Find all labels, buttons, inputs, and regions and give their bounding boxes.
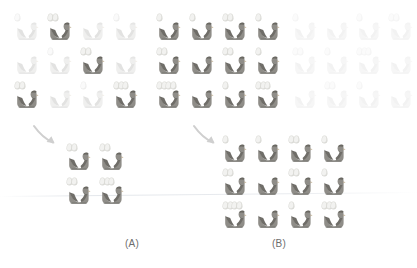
egg-icon xyxy=(48,48,53,55)
background-ghost-grid-eggs-10 xyxy=(356,80,382,89)
hen-icon xyxy=(15,55,39,75)
background-ghost-grid-cell-3 xyxy=(388,12,414,42)
egg-icon xyxy=(366,48,371,55)
hen-icon xyxy=(157,21,181,41)
panel-b-source-grid-cell-0 xyxy=(156,12,182,42)
hen-icon xyxy=(256,143,280,163)
panel-b-result-grid-eggs-6 xyxy=(288,167,314,176)
egg-icon xyxy=(228,14,233,21)
panel-a-source-grid-eggs-2 xyxy=(80,12,106,21)
panel-b-result-grid-eggs-9 xyxy=(255,200,281,209)
panel-b-source-grid-cell-3 xyxy=(255,12,281,42)
panel-a-source-grid-eggs-5 xyxy=(47,46,73,55)
panel-b-result-grid-eggs-3 xyxy=(321,134,347,143)
hen-icon xyxy=(293,21,317,41)
panel-b-source-grid-cell-9 xyxy=(189,80,215,110)
hen-icon xyxy=(114,55,138,75)
hen-icon xyxy=(100,151,124,171)
panel-b-result-grid-cell-8 xyxy=(222,200,248,230)
hen-icon xyxy=(289,209,313,229)
panel-b-result-grid-cell-2 xyxy=(288,134,314,164)
panel-a-source-grid-eggs-4 xyxy=(14,46,40,55)
hen-icon xyxy=(289,143,313,163)
hen-icon xyxy=(325,89,349,109)
panel-b-source-grid-eggs-11 xyxy=(255,80,281,89)
egg-icon xyxy=(294,136,299,143)
panel-a-source-grid-eggs-1 xyxy=(47,12,73,21)
egg-icon xyxy=(72,144,77,151)
background-ghost-grid-cell-11 xyxy=(388,80,414,110)
background-ghost-grid-eggs-6 xyxy=(356,46,382,55)
hen-icon xyxy=(48,89,72,109)
panel-b-source-grid-eggs-9 xyxy=(189,80,215,89)
egg-icon xyxy=(171,82,176,89)
panel-b-result-grid-cell-7 xyxy=(321,167,347,197)
panel-b-result-grid-eggs-7 xyxy=(321,167,347,176)
panel-b-result-grid-eggs-4 xyxy=(222,167,248,176)
panel-b-arrow xyxy=(192,124,220,148)
hen-icon xyxy=(223,89,247,109)
background-ghost-grid-eggs-11 xyxy=(388,80,414,89)
hen-icon xyxy=(67,185,91,205)
hen-icon xyxy=(223,21,247,41)
hen-icon xyxy=(157,55,181,75)
hen-icon xyxy=(325,21,349,41)
hen-icon xyxy=(223,143,247,163)
panel-b-result-grid-cell-5 xyxy=(255,167,281,197)
background-ghost-grid-cell-5 xyxy=(324,46,350,76)
hen-icon xyxy=(389,89,413,109)
hen-icon xyxy=(223,55,247,75)
egg-icon xyxy=(322,136,327,143)
egg-icon xyxy=(81,82,86,89)
hen-icon xyxy=(157,89,181,109)
egg-icon xyxy=(228,48,233,55)
panel-a-source-grid-cell-9 xyxy=(47,80,73,110)
egg-icon xyxy=(256,14,261,21)
panel-a-source-grid-cell-10 xyxy=(80,80,106,110)
panel-b-source-grid-cell-1 xyxy=(189,12,215,42)
panel-b-source-grid-cell-10 xyxy=(222,80,248,110)
background-ghost-grid-eggs-9 xyxy=(324,80,350,89)
panel-b-result-grid-cell-1 xyxy=(255,134,281,164)
egg-icon xyxy=(330,82,335,89)
hen-icon xyxy=(256,176,280,196)
panel-a-arrow xyxy=(32,124,60,148)
panel-b-result-grid-eggs-5 xyxy=(255,167,281,176)
hen-icon xyxy=(81,89,105,109)
egg-icon xyxy=(289,202,294,209)
egg-icon xyxy=(109,178,114,185)
hen-icon xyxy=(81,21,105,41)
panel-b-result-grid-cell-0 xyxy=(222,134,248,164)
hen-icon xyxy=(190,21,214,41)
egg-icon xyxy=(223,82,228,89)
hen-icon xyxy=(190,55,214,75)
hen-icon xyxy=(15,21,39,41)
hen-icon xyxy=(256,89,280,109)
hen-icon xyxy=(325,55,349,75)
egg-icon xyxy=(53,14,58,21)
egg-icon xyxy=(298,48,303,55)
background-ghost-grid-cell-6 xyxy=(356,46,382,76)
background-ghost-grid-cell-8 xyxy=(292,80,318,110)
background-ghost-grid-cell-4 xyxy=(292,46,318,76)
background-ghost-grid-eggs-7 xyxy=(388,46,414,55)
hen-icon xyxy=(48,21,72,41)
panel-a-source-grid-cell-6 xyxy=(80,46,106,76)
hen-icon xyxy=(256,55,280,75)
panel-a-source-grid-cell-3 xyxy=(113,12,139,42)
egg-icon xyxy=(105,144,110,151)
panel-a-source-grid-eggs-11 xyxy=(113,80,139,89)
background-ghost-grid-eggs-3 xyxy=(388,12,414,21)
panel-a-result-grid-cell-2 xyxy=(66,176,92,206)
panel-a-source-grid-cell-2 xyxy=(80,12,106,42)
background-ghost-grid-eggs-2 xyxy=(356,12,382,21)
panel-b-result-grid-cell-10 xyxy=(288,200,314,230)
panel-b-result-grid-cell-3 xyxy=(321,134,347,164)
hen-icon xyxy=(223,176,247,196)
panel-b-source-grid-eggs-1 xyxy=(189,12,215,21)
egg-icon xyxy=(162,48,167,55)
panel-b-result-grid-eggs-2 xyxy=(288,134,314,143)
panel-b-result-grid-eggs-1 xyxy=(255,134,281,143)
hen-icon xyxy=(190,89,214,109)
egg-icon xyxy=(394,14,399,21)
